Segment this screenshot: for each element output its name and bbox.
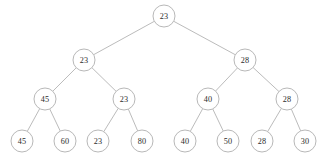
tree-node-80[interactable]: 80 xyxy=(131,130,153,152)
tree-edge xyxy=(94,21,155,54)
tree-node-28[interactable]: 28 xyxy=(251,130,273,152)
edge-layer xyxy=(27,21,300,131)
tree-edge xyxy=(104,108,118,131)
tree-node-23[interactable]: 23 xyxy=(113,88,135,110)
tree-edge xyxy=(253,67,279,91)
node-label: 40 xyxy=(204,95,213,104)
tree-edge xyxy=(128,109,137,131)
tree-edge xyxy=(213,109,224,131)
node-label: 50 xyxy=(224,137,233,146)
tree-node-45[interactable]: 45 xyxy=(34,88,56,110)
tree-edge xyxy=(174,21,236,55)
tree-edge xyxy=(53,68,76,91)
tree-edge xyxy=(27,109,39,132)
node-label: 23 xyxy=(120,95,129,104)
node-label: 45 xyxy=(18,137,27,146)
node-label: 30 xyxy=(301,137,310,146)
tree-node-50[interactable]: 50 xyxy=(217,130,239,152)
tree-node-23[interactable]: 23 xyxy=(87,130,109,152)
tree-node-45[interactable]: 45 xyxy=(11,130,33,152)
tree-edge xyxy=(190,109,202,132)
tree-canvas: 232328452340284560238040502830 xyxy=(0,0,327,158)
tree-node-60[interactable]: 60 xyxy=(54,130,76,152)
node-label: 40 xyxy=(181,137,190,146)
tree-edge xyxy=(50,109,61,131)
node-label: 28 xyxy=(283,95,292,104)
tree-node-28[interactable]: 28 xyxy=(276,88,298,110)
node-layer: 232328452340284560238040502830 xyxy=(11,5,316,152)
tree-node-30[interactable]: 30 xyxy=(294,130,316,152)
tree-node-40[interactable]: 40 xyxy=(174,130,196,152)
tree-node-40[interactable]: 40 xyxy=(197,88,219,110)
node-label: 45 xyxy=(41,95,50,104)
tree-edge xyxy=(92,68,116,92)
node-label: 23 xyxy=(80,56,89,65)
tree-node-28[interactable]: 28 xyxy=(234,49,256,71)
tree-node-23[interactable]: 23 xyxy=(153,5,175,27)
node-label: 80 xyxy=(138,137,147,146)
node-label: 60 xyxy=(61,137,70,146)
node-label: 28 xyxy=(258,137,267,146)
node-label: 23 xyxy=(160,12,169,21)
node-label: 28 xyxy=(241,56,250,65)
node-label: 23 xyxy=(94,137,103,146)
tree-edge xyxy=(216,68,238,91)
tree-edge xyxy=(291,109,300,131)
tree-edge xyxy=(268,108,282,131)
tree-node-23[interactable]: 23 xyxy=(73,49,95,71)
binary-tree-figure: 232328452340284560238040502830 xyxy=(0,0,327,158)
